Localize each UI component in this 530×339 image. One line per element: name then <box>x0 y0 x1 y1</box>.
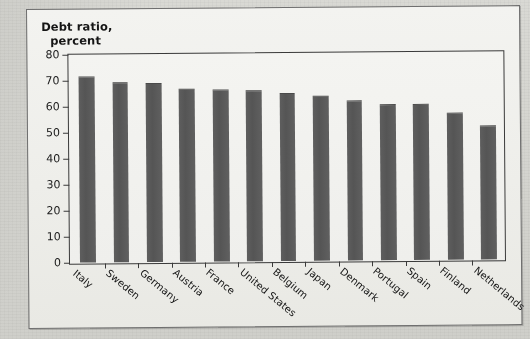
bar-series <box>70 52 504 262</box>
bar <box>179 88 196 261</box>
y-tick-label: 40 <box>46 152 60 165</box>
figure-box: Debt ratio, percent 01020304050607080 It… <box>26 5 522 329</box>
bar <box>213 89 230 261</box>
bar <box>313 95 330 260</box>
x-axis-label: Finland <box>438 265 473 297</box>
y-tick-mark <box>64 211 70 212</box>
x-axis-label: Spain <box>405 265 434 292</box>
y-tick-mark <box>63 185 69 186</box>
y-tick-mark <box>63 159 69 160</box>
bar <box>447 112 464 259</box>
caption-line-2: percent <box>50 33 112 47</box>
y-tick-mark <box>63 133 69 134</box>
y-tick-label: 80 <box>45 48 59 61</box>
x-axis-label: Netherlands <box>472 264 527 312</box>
y-tick-mark <box>63 107 69 108</box>
bar <box>146 83 163 261</box>
y-tick-mark <box>64 263 70 264</box>
bar <box>279 93 296 261</box>
y-tick-label: 20 <box>47 205 61 218</box>
y-tick-mark <box>64 237 70 238</box>
bar <box>346 100 363 260</box>
x-axis-labels: ItalySwedenGermanyAustriaFranceUnited St… <box>69 264 506 327</box>
x-axis-label: Sweden <box>104 267 142 301</box>
y-tick-label: 10 <box>47 231 61 244</box>
caption-line-1: Debt ratio, <box>41 19 112 34</box>
y-tick-mark <box>63 81 69 82</box>
bar <box>413 103 430 259</box>
plot-area: 01020304050607080 <box>67 50 506 264</box>
y-tick-label: 0 <box>54 257 61 270</box>
chart-caption: Debt ratio, percent <box>41 19 113 48</box>
bar <box>112 82 129 262</box>
bar <box>79 76 96 262</box>
plot-frame: 01020304050607080 <box>67 50 506 264</box>
scanned-page: in the rest of the economy. Because thed… <box>0 0 530 339</box>
x-axis-label: Japan <box>305 266 334 293</box>
bar <box>246 90 263 260</box>
y-tick-label: 70 <box>46 74 60 87</box>
x-axis-label: Italy <box>71 268 95 291</box>
bar <box>480 125 497 259</box>
y-tick-label: 60 <box>46 100 60 113</box>
x-axis-label: France <box>204 267 237 297</box>
bar <box>380 104 397 260</box>
y-tick-label: 50 <box>46 126 60 139</box>
y-tick-mark <box>62 55 68 56</box>
y-tick-label: 30 <box>46 178 60 191</box>
